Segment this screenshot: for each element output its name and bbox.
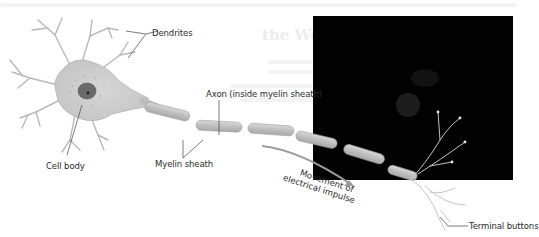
myelin-segments xyxy=(144,101,418,181)
label-dendrites: Dendrites xyxy=(152,28,193,38)
terminal-button-dots xyxy=(437,111,467,164)
label-axon: Axon (inside myelin sheath) xyxy=(206,89,322,99)
nucleus xyxy=(78,83,96,99)
label-myelin-sheath: Myelin sheath xyxy=(155,159,213,169)
nucleolus xyxy=(87,92,90,95)
cell-body xyxy=(55,60,150,121)
axon-terminals xyxy=(410,112,465,230)
label-terminal-buttons: Terminal buttons xyxy=(469,221,539,231)
label-cell-body: Cell body xyxy=(46,161,85,171)
